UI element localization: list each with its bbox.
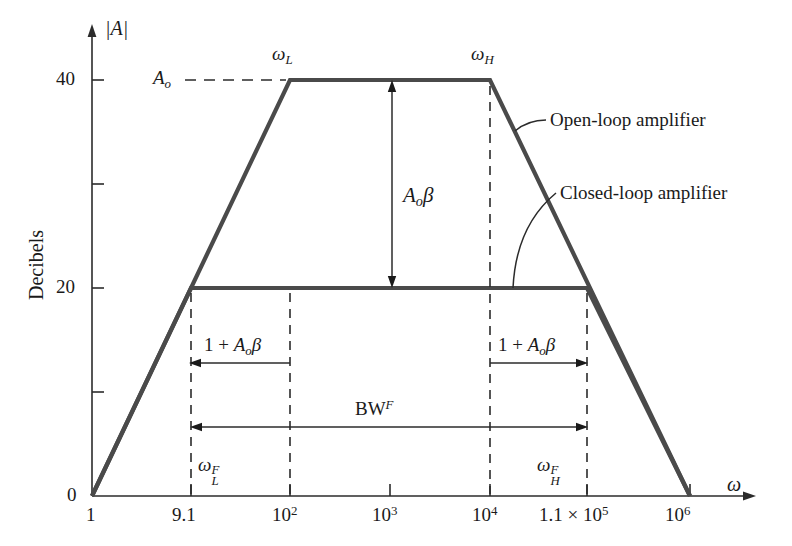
y-tick-label-20: 20	[56, 277, 75, 296]
x-tick-label-1e3: 103	[372, 505, 397, 524]
right-loop-gain-label: 1 + Aoβ	[498, 335, 555, 358]
omega-H-F-label: ωFH	[537, 455, 561, 474]
open-loop-leader-line	[515, 120, 546, 131]
a-o-label: Ao	[153, 68, 171, 91]
x-tick-label-9p1: 9.1	[172, 505, 196, 524]
bode-plot-figure: |A| Decibels 40 20 0 1 9.1 102 103 104 1…	[0, 0, 792, 546]
x-tick-label-1p1e5: 1.1 × 105	[539, 505, 608, 524]
x-tick-label-1e2: 102	[272, 505, 297, 524]
y-axis-symbol: |A|	[105, 18, 128, 38]
y-axis	[88, 24, 104, 496]
a-o-beta-label: Aoβ	[403, 185, 433, 208]
y-tick-label-0: 0	[67, 485, 77, 504]
x-tick-label-1e6: 106	[665, 505, 690, 524]
omega-L-F-label: ωFL	[198, 455, 220, 474]
bandwidth-double-arrow	[190, 423, 588, 431]
right-loop-gain-arrow	[490, 359, 588, 367]
bandwidth-label: BWF	[355, 399, 394, 418]
x-tick-label-1e4: 104	[472, 505, 497, 524]
plot-canvas	[0, 0, 792, 546]
a-o-beta-double-arrow	[388, 80, 396, 288]
open-loop-amplifier-label: Open-loop amplifier	[550, 110, 706, 129]
left-loop-gain-arrow	[189, 359, 290, 367]
y-axis-title: Decibels	[26, 230, 46, 300]
x-tick-label-1: 1	[86, 505, 96, 524]
closed-loop-response-curve	[92, 288, 690, 496]
left-loop-gain-label: 1 + Aoβ	[204, 335, 261, 358]
omega-L-label: ωL	[272, 44, 293, 67]
y-tick-label-40: 40	[56, 69, 75, 88]
x-axis-symbol: ω	[727, 474, 741, 494]
closed-loop-amplifier-label: Closed-loop amplifier	[560, 183, 727, 202]
omega-H-label: ωH	[471, 44, 494, 67]
